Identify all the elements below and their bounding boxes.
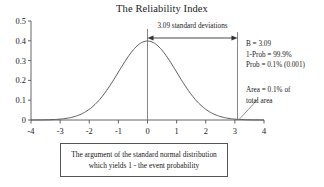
y-tick-label: 0.3 — [16, 57, 26, 66]
x-tick-label: -4 — [28, 127, 36, 136]
span-arrow — [148, 35, 238, 40]
y-tick-label: 0.5 — [16, 17, 26, 26]
x-axis: -4-3-2-101234 — [28, 120, 267, 136]
area-note-line-1: Area = 0.1% of — [246, 85, 290, 96]
x-tick-label: -1 — [115, 127, 122, 136]
x-tick-label: 1 — [175, 127, 179, 136]
x-axis-ticks — [31, 120, 264, 124]
caption-line-1: The argument of the standard normal dist… — [71, 149, 217, 160]
reliability-index-figure: The Reliability Index 00.10.20.30.40.5 -… — [0, 0, 324, 187]
stat-line-prob: Prob = 0.1% (0.001) — [246, 60, 305, 71]
y-tick-label: 0.2 — [16, 76, 26, 85]
y-axis-tick-labels: 00.10.20.30.40.5 — [16, 17, 27, 125]
x-tick-label: -3 — [57, 127, 64, 136]
y-tick-label: 0.4 — [16, 37, 27, 46]
span-arrow-head-right — [231, 35, 237, 40]
x-tick-label: 0 — [145, 127, 149, 136]
span-arrow-label: 3.09 standard deviations — [138, 22, 248, 30]
x-tick-label: -2 — [86, 127, 93, 136]
x-axis-tick-labels: -4-3-2-101234 — [28, 127, 267, 136]
x-tick-label: 4 — [262, 127, 267, 136]
x-tick-label: 2 — [204, 127, 208, 136]
span-arrow-head-left — [148, 35, 154, 40]
y-axis: 00.10.20.30.40.5 — [16, 17, 31, 125]
stat-line-oneprob: 1-Prob = 99.9% — [246, 50, 305, 61]
stats-annotation: B = 3.09 1-Prob = 99.9% Prob = 0.1% (0.0… — [246, 39, 305, 71]
caption-box: The argument of the standard normal dist… — [60, 143, 228, 177]
x-tick-label: 3 — [233, 127, 237, 136]
caption-line-2: which yields 1 - the event probability — [89, 160, 199, 171]
area-annotation: Area = 0.1% of total area — [246, 85, 290, 106]
y-tick-label: 0.1 — [16, 96, 26, 105]
area-note-line-2: total area — [246, 96, 290, 107]
y-tick-label: 0 — [22, 116, 26, 125]
stat-line-beta: B = 3.09 — [246, 39, 305, 50]
